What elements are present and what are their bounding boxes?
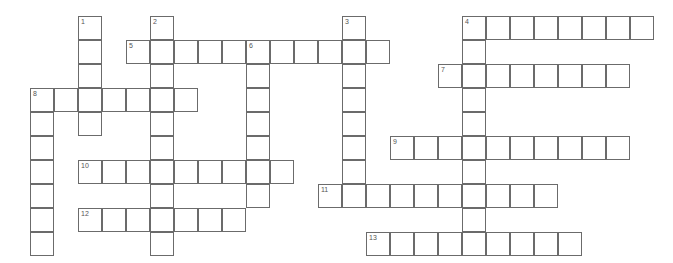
crossword-cell[interactable] <box>126 160 150 184</box>
crossword-cell[interactable] <box>366 40 390 64</box>
crossword-cell[interactable] <box>534 136 558 160</box>
crossword-cell-numbered[interactable]: 8 <box>30 88 54 112</box>
crossword-cell-numbered[interactable]: 5 <box>126 40 150 64</box>
crossword-cell[interactable] <box>294 40 318 64</box>
crossword-cell[interactable] <box>150 160 174 184</box>
crossword-cell[interactable] <box>462 40 486 64</box>
crossword-cell[interactable] <box>126 88 150 112</box>
crossword-cell[interactable] <box>246 136 270 160</box>
crossword-cell[interactable] <box>414 184 438 208</box>
crossword-cell[interactable] <box>462 232 486 256</box>
crossword-cell[interactable] <box>174 208 198 232</box>
crossword-cell[interactable] <box>606 16 630 40</box>
crossword-cell[interactable] <box>630 16 654 40</box>
crossword-cell[interactable] <box>510 136 534 160</box>
crossword-cell[interactable] <box>126 208 150 232</box>
crossword-cell[interactable] <box>342 112 366 136</box>
crossword-cell[interactable] <box>510 184 534 208</box>
crossword-cell[interactable] <box>462 112 486 136</box>
crossword-cell[interactable] <box>246 184 270 208</box>
crossword-cell[interactable] <box>198 160 222 184</box>
crossword-cell[interactable] <box>534 184 558 208</box>
crossword-cell[interactable] <box>606 136 630 160</box>
crossword-cell[interactable] <box>462 88 486 112</box>
crossword-cell[interactable] <box>102 208 126 232</box>
crossword-cell[interactable] <box>150 208 174 232</box>
crossword-cell[interactable] <box>510 232 534 256</box>
crossword-cell[interactable] <box>462 64 486 88</box>
crossword-cell[interactable] <box>438 184 462 208</box>
crossword-cell[interactable] <box>462 208 486 232</box>
crossword-cell[interactable] <box>462 184 486 208</box>
crossword-cell[interactable] <box>390 184 414 208</box>
crossword-cell-numbered[interactable]: 12 <box>78 208 102 232</box>
crossword-cell[interactable] <box>462 136 486 160</box>
crossword-cell[interactable] <box>150 112 174 136</box>
crossword-cell[interactable] <box>222 208 246 232</box>
crossword-cell[interactable] <box>342 136 366 160</box>
crossword-cell[interactable] <box>510 16 534 40</box>
crossword-cell[interactable] <box>54 88 78 112</box>
crossword-cell[interactable] <box>246 64 270 88</box>
crossword-cell[interactable] <box>30 232 54 256</box>
crossword-cell[interactable] <box>102 88 126 112</box>
crossword-cell-numbered[interactable]: 9 <box>390 136 414 160</box>
crossword-cell[interactable] <box>582 136 606 160</box>
crossword-cell[interactable] <box>366 184 390 208</box>
crossword-cell[interactable] <box>414 136 438 160</box>
crossword-cell[interactable] <box>534 64 558 88</box>
crossword-cell[interactable] <box>486 232 510 256</box>
crossword-cell[interactable] <box>246 160 270 184</box>
crossword-cell[interactable] <box>174 160 198 184</box>
crossword-cell[interactable] <box>174 88 198 112</box>
crossword-cell-numbered[interactable]: 10 <box>78 160 102 184</box>
crossword-cell[interactable] <box>438 136 462 160</box>
crossword-cell[interactable] <box>270 40 294 64</box>
crossword-cell[interactable] <box>342 160 366 184</box>
crossword-cell[interactable] <box>246 112 270 136</box>
crossword-cell[interactable] <box>198 208 222 232</box>
crossword-cell[interactable] <box>222 160 246 184</box>
crossword-cell[interactable] <box>30 136 54 160</box>
crossword-cell[interactable] <box>606 64 630 88</box>
crossword-cell-numbered[interactable]: 7 <box>438 64 462 88</box>
crossword-cell[interactable] <box>558 232 582 256</box>
crossword-cell[interactable] <box>558 136 582 160</box>
crossword-cell[interactable] <box>342 184 366 208</box>
crossword-cell[interactable] <box>342 40 366 64</box>
crossword-cell[interactable] <box>486 64 510 88</box>
crossword-cell[interactable] <box>510 64 534 88</box>
crossword-cell[interactable] <box>438 232 462 256</box>
crossword-cell[interactable] <box>150 64 174 88</box>
crossword-cell[interactable] <box>198 40 222 64</box>
crossword-cell[interactable] <box>342 88 366 112</box>
crossword-cell-numbered[interactable]: 2 <box>150 16 174 40</box>
crossword-cell[interactable] <box>486 16 510 40</box>
crossword-cell[interactable] <box>150 232 174 256</box>
crossword-cell[interactable] <box>390 232 414 256</box>
crossword-cell[interactable] <box>414 232 438 256</box>
crossword-cell[interactable] <box>558 16 582 40</box>
crossword-cell[interactable] <box>462 160 486 184</box>
crossword-cell[interactable] <box>78 112 102 136</box>
crossword-cell[interactable] <box>150 40 174 64</box>
crossword-cell[interactable] <box>582 16 606 40</box>
crossword-cell[interactable] <box>30 208 54 232</box>
crossword-cell[interactable] <box>342 64 366 88</box>
crossword-cell[interactable] <box>102 160 126 184</box>
crossword-cell[interactable] <box>222 40 246 64</box>
crossword-cell[interactable] <box>78 88 102 112</box>
crossword-cell[interactable] <box>150 136 174 160</box>
crossword-cell[interactable] <box>270 160 294 184</box>
crossword-cell[interactable] <box>30 184 54 208</box>
crossword-cell[interactable] <box>78 64 102 88</box>
crossword-cell[interactable] <box>150 184 174 208</box>
crossword-cell[interactable] <box>318 40 342 64</box>
crossword-cell[interactable] <box>534 16 558 40</box>
crossword-cell[interactable] <box>150 88 174 112</box>
crossword-cell[interactable] <box>486 136 510 160</box>
crossword-cell[interactable] <box>78 40 102 64</box>
crossword-cell[interactable] <box>582 64 606 88</box>
crossword-cell-numbered[interactable]: 11 <box>318 184 342 208</box>
crossword-cell-numbered[interactable]: 13 <box>366 232 390 256</box>
